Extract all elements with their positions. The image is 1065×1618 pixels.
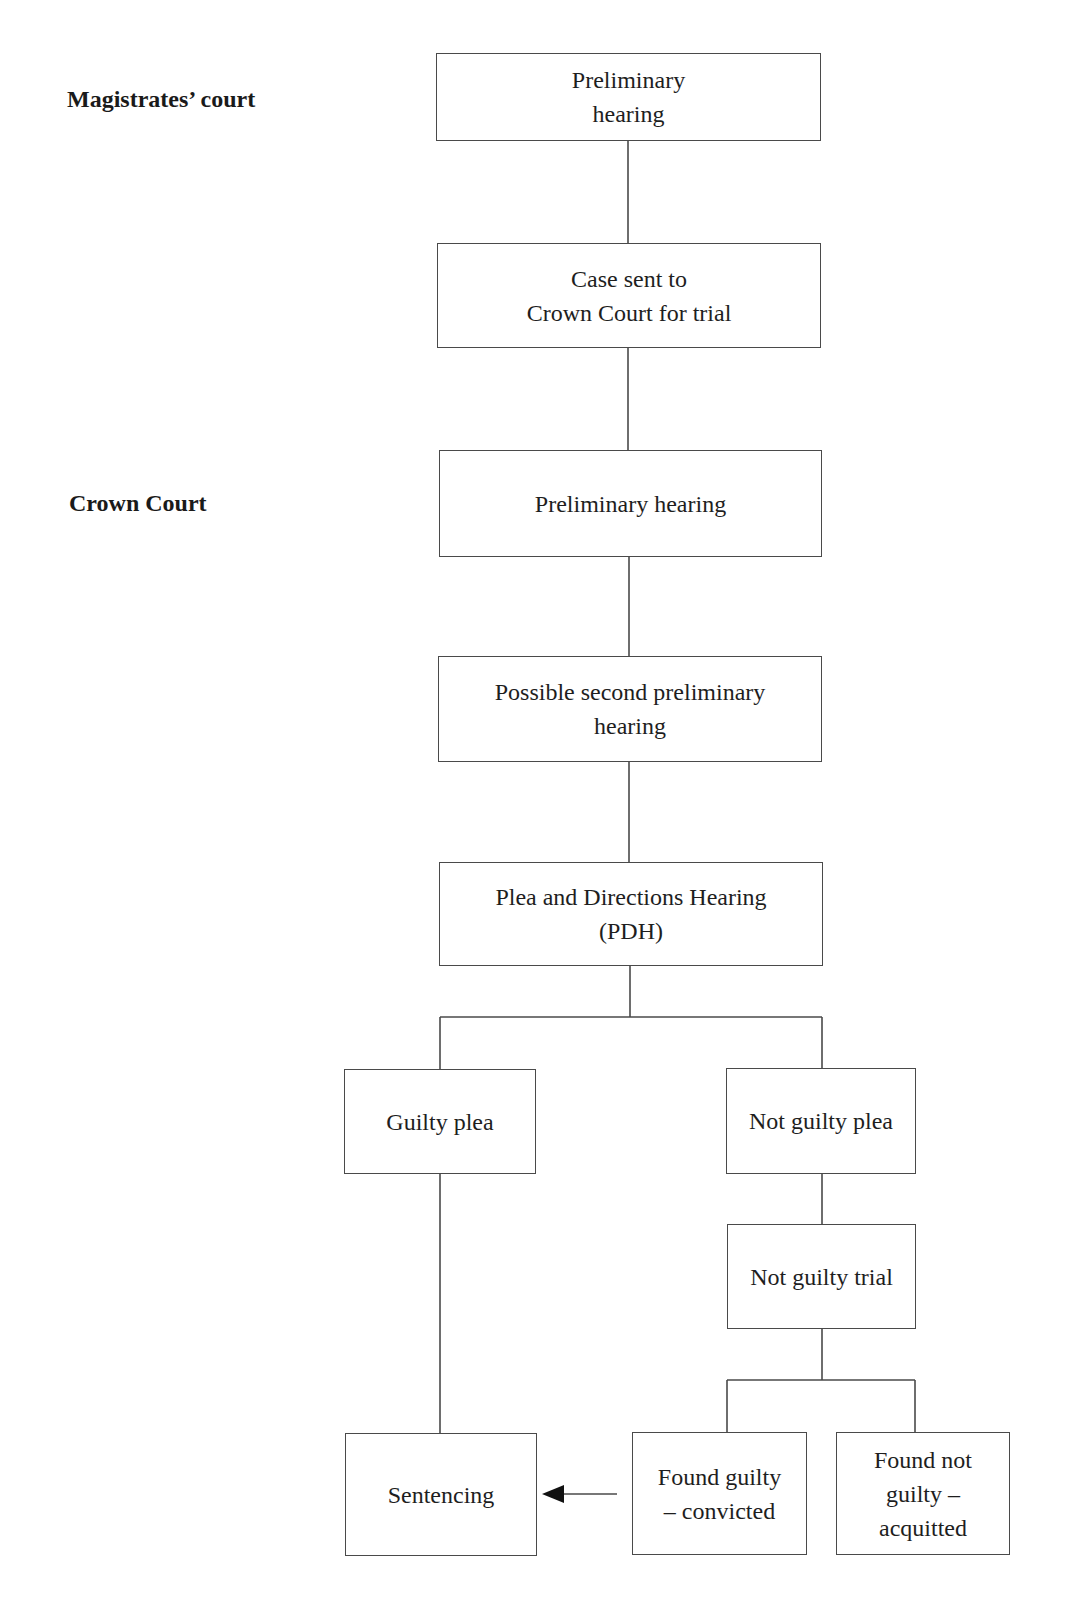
node-second-preliminary-hearing: Possible second preliminary hearing	[438, 656, 822, 762]
node-label: Guilty plea	[386, 1105, 493, 1139]
node-label: Sentencing	[388, 1478, 495, 1512]
node-not-guilty-plea: Not guilty plea	[726, 1068, 916, 1174]
node-case-sent-to-crown-court: Case sent to Crown Court for trial	[437, 243, 821, 348]
flowchart-canvas: Magistrates’ court Crown Court Prelimina…	[0, 0, 1065, 1618]
node-label: Case sent to Crown Court for trial	[527, 262, 732, 330]
node-magistrates-preliminary-hearing: Preliminary hearing	[436, 53, 821, 141]
node-sentencing: Sentencing	[345, 1433, 537, 1556]
node-crown-preliminary-hearing: Preliminary hearing	[439, 450, 822, 557]
node-label: Possible second preliminary hearing	[495, 675, 766, 743]
stage-label-crown-court: Crown Court	[69, 490, 207, 517]
arrow-left-icon	[542, 1485, 564, 1503]
node-label: Not guilty trial	[750, 1260, 893, 1294]
node-label: Preliminary hearing	[572, 63, 685, 131]
node-found-not-guilty-acquitted: Found not guilty – acquitted	[836, 1432, 1010, 1555]
node-label: Found not guilty – acquitted	[874, 1443, 972, 1545]
node-label: Found guilty – convicted	[658, 1460, 781, 1528]
node-plea-and-directions-hearing: Plea and Directions Hearing (PDH)	[439, 862, 823, 966]
stage-label-magistrates: Magistrates’ court	[67, 86, 255, 113]
node-label: Plea and Directions Hearing (PDH)	[495, 880, 766, 948]
node-label: Preliminary hearing	[535, 487, 726, 521]
node-label: Not guilty plea	[749, 1104, 893, 1138]
node-found-guilty-convicted: Found guilty – convicted	[632, 1432, 807, 1555]
node-not-guilty-trial: Not guilty trial	[727, 1224, 916, 1329]
node-guilty-plea: Guilty plea	[344, 1069, 536, 1174]
